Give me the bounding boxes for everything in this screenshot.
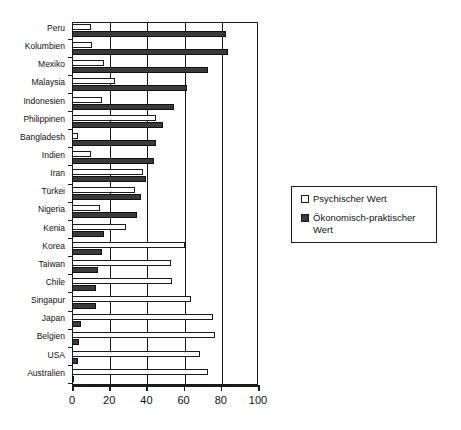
category-label: USA bbox=[48, 350, 65, 361]
bar-psychischer-wert bbox=[72, 242, 185, 248]
legend-swatch-icon-psychischer-wert bbox=[301, 195, 309, 203]
bar-oekonomisch-praktischer-wert bbox=[72, 140, 156, 146]
bar-oekonomisch-praktischer-wert bbox=[72, 358, 78, 364]
bar-oekonomisch-praktischer-wert bbox=[72, 67, 208, 73]
category-label: Malaysia bbox=[31, 77, 65, 88]
category-label: Korea bbox=[42, 241, 65, 252]
bar-psychischer-wert bbox=[72, 351, 200, 357]
bar-row: Taiwan bbox=[72, 258, 258, 276]
category-label: Japan bbox=[42, 313, 65, 324]
bar-row: Indien bbox=[72, 149, 258, 167]
bar-oekonomisch-praktischer-wert bbox=[72, 376, 74, 382]
category-label: Chile bbox=[46, 277, 65, 288]
bar-row: Türkei bbox=[72, 185, 258, 203]
category-label: Kenia bbox=[43, 223, 65, 234]
bar-psychischer-wert bbox=[72, 115, 156, 121]
bar-row: Mexiko bbox=[72, 58, 258, 76]
x-tick-80 bbox=[221, 385, 223, 391]
category-label: Singapur bbox=[31, 295, 65, 306]
bar-psychischer-wert bbox=[72, 97, 102, 103]
category-label: Indien bbox=[42, 150, 65, 161]
bar-psychischer-wert bbox=[72, 332, 215, 338]
bar-oekonomisch-praktischer-wert bbox=[72, 303, 96, 309]
bar-oekonomisch-praktischer-wert bbox=[72, 194, 141, 200]
bar-oekonomisch-praktischer-wert bbox=[72, 231, 104, 237]
x-tick-label-80: 80 bbox=[215, 394, 227, 406]
x-tick-label-40: 40 bbox=[140, 394, 152, 406]
bar-oekonomisch-praktischer-wert bbox=[72, 285, 96, 291]
bar-psychischer-wert bbox=[72, 151, 91, 157]
bar-row: Australien bbox=[72, 367, 258, 385]
bar-psychischer-wert bbox=[72, 24, 91, 30]
bar-row: Bangladesh bbox=[72, 131, 258, 149]
legend-swatch-icon-oekonomisch-praktischer-wert bbox=[301, 214, 309, 222]
category-label: Peru bbox=[47, 23, 65, 34]
legend-entry-psychischer-wert: Psychischer Wert bbox=[301, 193, 429, 205]
bar-psychischer-wert bbox=[72, 169, 143, 175]
bar-row: Kolumbien bbox=[72, 40, 258, 58]
bar-row: Chile bbox=[72, 276, 258, 294]
bar-psychischer-wert bbox=[72, 205, 100, 211]
x-tick-0 bbox=[72, 385, 74, 391]
bar-psychischer-wert bbox=[72, 369, 208, 375]
bar-oekonomisch-praktischer-wert bbox=[72, 321, 81, 327]
category-label: Türkei bbox=[41, 186, 65, 197]
x-axis: 020406080100 bbox=[72, 385, 258, 425]
bar-oekonomisch-praktischer-wert bbox=[72, 339, 79, 345]
category-label: Iran bbox=[50, 168, 65, 179]
bar-psychischer-wert bbox=[72, 296, 191, 302]
category-label: Mexiko bbox=[38, 59, 65, 70]
bar-row: USA bbox=[72, 349, 258, 367]
legend-entry-oekonomisch-praktischer-wert: Ökonomisch-praktischer Wert bbox=[301, 212, 429, 236]
bar-oekonomisch-praktischer-wert bbox=[72, 212, 137, 218]
x-tick-label-60: 60 bbox=[177, 394, 189, 406]
category-label: Indonesien bbox=[23, 96, 65, 107]
bar-row: Singapur bbox=[72, 294, 258, 312]
category-label: Belgien bbox=[37, 331, 65, 342]
bar-row: Japan bbox=[72, 312, 258, 330]
bar-psychischer-wert bbox=[72, 60, 104, 66]
category-label: Kolumbien bbox=[25, 41, 65, 52]
bar-row: Iran bbox=[72, 167, 258, 185]
bar-chart: PeruKolumbienMexikoMalaysiaIndonesienPhi… bbox=[0, 0, 270, 430]
x-tick-60 bbox=[184, 385, 186, 391]
bar-oekonomisch-praktischer-wert bbox=[72, 31, 226, 37]
x-tick-label-0: 0 bbox=[69, 394, 75, 406]
legend-label-oekonomisch-praktischer-wert: Ökonomisch-praktischer Wert bbox=[313, 212, 429, 236]
x-tick-100 bbox=[258, 385, 260, 391]
bar-psychischer-wert bbox=[72, 133, 78, 139]
bar-psychischer-wert bbox=[72, 260, 171, 266]
bar-psychischer-wert bbox=[72, 42, 92, 48]
x-tick-label-100: 100 bbox=[249, 394, 267, 406]
bar-psychischer-wert bbox=[72, 278, 172, 284]
category-label: Nigeria bbox=[38, 204, 65, 215]
bar-oekonomisch-praktischer-wert bbox=[72, 122, 163, 128]
bar-row: Peru bbox=[72, 22, 258, 40]
bar-psychischer-wert bbox=[72, 78, 115, 84]
bar-oekonomisch-praktischer-wert bbox=[72, 249, 102, 255]
bar-row: Malaysia bbox=[72, 76, 258, 94]
bar-oekonomisch-praktischer-wert bbox=[72, 49, 228, 55]
category-label: Bangladesh bbox=[20, 132, 65, 143]
bar-row: Belgien bbox=[72, 330, 258, 348]
x-tick-20 bbox=[109, 385, 111, 391]
chart-page: PeruKolumbienMexikoMalaysiaIndonesienPhi… bbox=[0, 0, 461, 430]
bar-oekonomisch-praktischer-wert bbox=[72, 85, 187, 91]
x-axis-line bbox=[72, 385, 258, 387]
legend-label-psychischer-wert: Psychischer Wert bbox=[313, 193, 387, 205]
bar-psychischer-wert bbox=[72, 314, 213, 320]
bar-row: Kenia bbox=[72, 222, 258, 240]
x-tick-label-20: 20 bbox=[103, 394, 115, 406]
x-tick-40 bbox=[146, 385, 148, 391]
bar-rows: PeruKolumbienMexikoMalaysiaIndonesienPhi… bbox=[72, 22, 258, 385]
bar-psychischer-wert bbox=[72, 224, 126, 230]
bar-oekonomisch-praktischer-wert bbox=[72, 158, 154, 164]
bar-oekonomisch-praktischer-wert bbox=[72, 104, 174, 110]
category-label: Australien bbox=[27, 368, 65, 379]
chart-legend: Psychischer Wert Ökonomisch-praktischer … bbox=[291, 186, 437, 243]
bar-row: Indonesien bbox=[72, 95, 258, 113]
category-label: Taiwan bbox=[39, 259, 65, 270]
bar-row: Philippinen bbox=[72, 113, 258, 131]
bar-oekonomisch-praktischer-wert bbox=[72, 176, 146, 182]
category-label: Philippinen bbox=[23, 114, 65, 125]
